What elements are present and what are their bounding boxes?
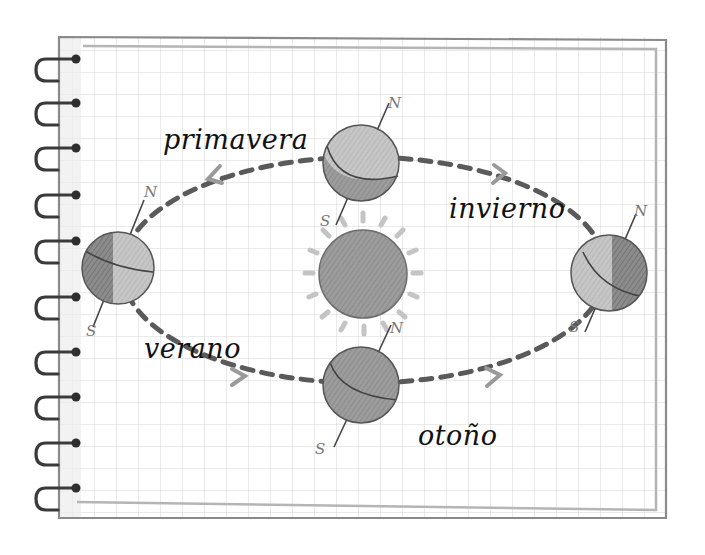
season-label-invierno: invierno [449,193,565,224]
diagram-canvas [0,0,705,555]
south-pole-label: S [86,322,96,340]
north-pole-label: N [388,94,401,112]
season-label-verano: verano [144,333,241,364]
north-pole-label: N [634,202,647,220]
sun [305,213,421,334]
orbit-diagram: N S N S N S N S primavera invierno otoño… [0,0,705,555]
north-pole-label: N [390,319,403,337]
south-pole-label: S [569,318,579,336]
season-label-primavera: primavera [163,124,308,155]
season-label-otono: otoño [418,420,498,451]
south-pole-label: S [320,212,330,230]
north-pole-label: N [144,183,157,201]
south-pole-label: S [315,440,325,458]
